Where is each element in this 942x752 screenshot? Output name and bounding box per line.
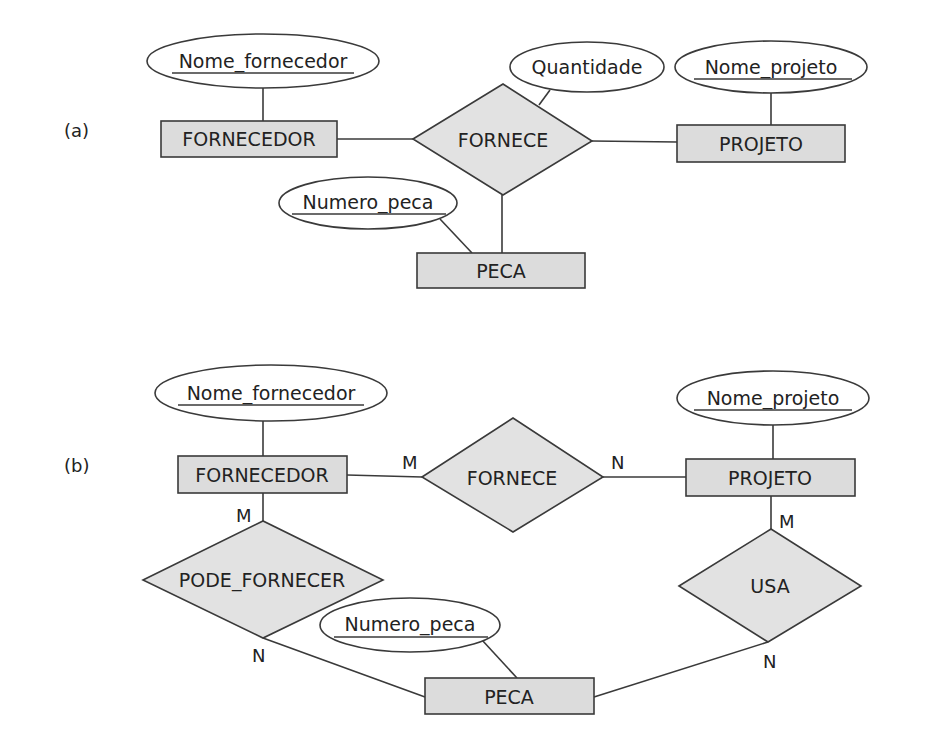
entity-label: PROJETO: [728, 467, 812, 489]
er-diagram-canvas: (a) Nome_fornecedor Quantidade Nome_proj…: [0, 0, 942, 752]
relationship-fornece-b[interactable]: FORNECE: [422, 418, 603, 532]
attribute-label: Nome_projeto: [707, 387, 840, 410]
attribute-label: Nome_fornecedor: [187, 382, 356, 405]
connector-fornecedor-fornece: [347, 475, 422, 477]
connector-quantidade-fornece: [539, 90, 550, 105]
attribute-numero-peca-b: Numero_peca: [320, 598, 500, 652]
cardinality-projeto-usa: M: [779, 511, 795, 532]
attribute-label: Numero_peca: [303, 191, 434, 214]
connector-peca-usa: [594, 642, 768, 697]
diagram-b: (b) Nome_fornecedor Nome_projeto FORNECE…: [64, 365, 869, 714]
cardinality-fornecedor-pode-fornecer: M: [236, 505, 252, 526]
diagram-a: (a) Nome_fornecedor Quantidade Nome_proj…: [64, 34, 867, 288]
entity-label: PROJETO: [719, 133, 803, 155]
entity-label: FORNECEDOR: [182, 128, 315, 150]
entity-projeto-a[interactable]: PROJETO: [677, 125, 845, 162]
attribute-nome-projeto-a: Nome_projeto: [675, 41, 867, 93]
entity-peca-b[interactable]: PECA: [425, 678, 594, 714]
entity-label: PECA: [484, 686, 534, 708]
attribute-quantidade-a: Quantidade: [510, 42, 664, 92]
connector-fornece-projeto: [592, 141, 677, 142]
entity-projeto-b[interactable]: PROJETO: [686, 459, 855, 496]
attribute-nome-projeto-b: Nome_projeto: [677, 371, 869, 425]
cardinality-pode-fornecer-peca: N: [252, 645, 265, 666]
entity-peca-a[interactable]: PECA: [417, 253, 585, 288]
attribute-label: Nome_fornecedor: [179, 50, 348, 73]
part-label-a: (a): [64, 120, 89, 141]
connector-numero-peca-peca: [440, 219, 472, 253]
attribute-nome-fornecedor-a: Nome_fornecedor: [147, 34, 379, 88]
relationship-usa-b[interactable]: USA: [679, 529, 861, 642]
cardinality-fornecedor-fornece: M: [402, 452, 418, 473]
attribute-label: Numero_peca: [345, 613, 476, 636]
relationship-label: FORNECE: [458, 129, 549, 151]
connector-numero-peca-peca: [482, 640, 517, 678]
entity-fornecedor-b[interactable]: FORNECEDOR: [178, 456, 347, 493]
attribute-label: Nome_projeto: [705, 56, 838, 79]
relationship-label: USA: [750, 575, 789, 597]
cardinality-usa-peca: N: [763, 651, 776, 672]
part-label-b: (b): [64, 455, 89, 476]
entity-fornecedor-a[interactable]: FORNECEDOR: [161, 121, 337, 157]
attribute-numero-peca-a: Numero_peca: [279, 177, 457, 229]
attribute-label: Quantidade: [532, 56, 643, 78]
entity-label: PECA: [476, 260, 526, 282]
relationship-label: PODE_FORNECER: [179, 569, 345, 592]
entity-label: FORNECEDOR: [195, 464, 328, 486]
relationship-label: FORNECE: [467, 467, 558, 489]
cardinality-fornece-projeto: N: [611, 452, 624, 473]
relationship-fornece-a[interactable]: FORNECE: [413, 84, 592, 195]
attribute-nome-fornecedor-b: Nome_fornecedor: [155, 365, 387, 421]
